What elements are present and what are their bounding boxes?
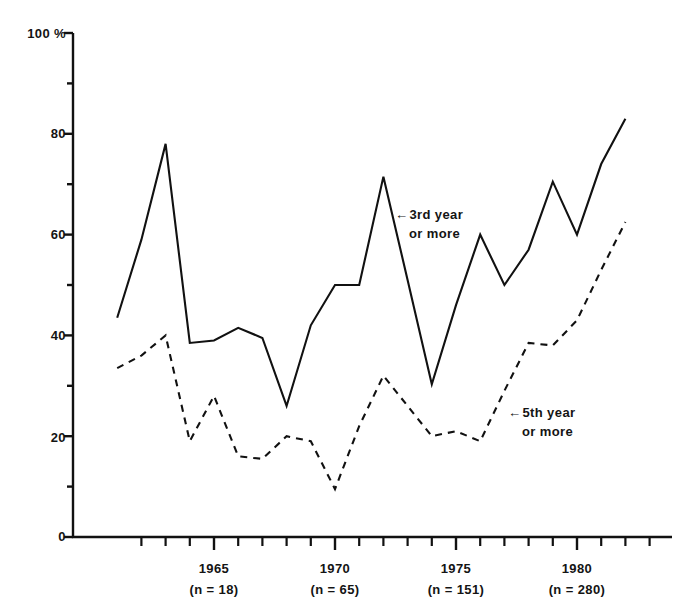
line-chart: 100 % 80 60 40 20 0 1965 (n = 18) 1970 (… <box>0 0 690 609</box>
arrow-left-icon: ← <box>395 205 408 224</box>
y-axis-label-60: 60 <box>0 227 66 242</box>
y-axis-label-0: 0 <box>0 529 66 544</box>
x-axis-label-1965: 1965 <box>199 561 230 576</box>
x-axis-sublabel-1975: (n = 151) <box>428 582 485 597</box>
x-axis-label-1970: 1970 <box>320 561 351 576</box>
y-axis-label-20: 20 <box>0 430 66 445</box>
x-axis-sublabel-1980: (n = 280) <box>549 582 606 597</box>
annotation-5th-year: ←5th year or more <box>508 403 575 441</box>
chart-canvas <box>0 0 690 609</box>
chart-axes <box>64 33 672 550</box>
series-line-2 <box>117 222 625 489</box>
y-axis-label-100: 100 % <box>0 26 66 41</box>
x-axis-label-1975: 1975 <box>441 561 472 576</box>
annotation-3rd-year: ←3rd year or more <box>395 205 463 243</box>
y-axis-label-40: 40 <box>0 328 66 343</box>
annotation-3rd-year-line1: 3rd year <box>409 207 463 222</box>
annotation-3rd-year-line2: or more <box>395 224 463 243</box>
annotation-5th-year-line2: or more <box>508 422 575 441</box>
x-axis-sublabel-1970: (n = 65) <box>310 582 359 597</box>
arrow-left-icon: ← <box>508 403 521 422</box>
x-axis-label-1980: 1980 <box>562 561 593 576</box>
x-axis-sublabel-1965: (n = 18) <box>189 582 238 597</box>
series-line-1 <box>117 119 625 406</box>
y-axis-label-80: 80 <box>0 126 66 141</box>
annotation-5th-year-line1: 5th year <box>522 405 575 420</box>
